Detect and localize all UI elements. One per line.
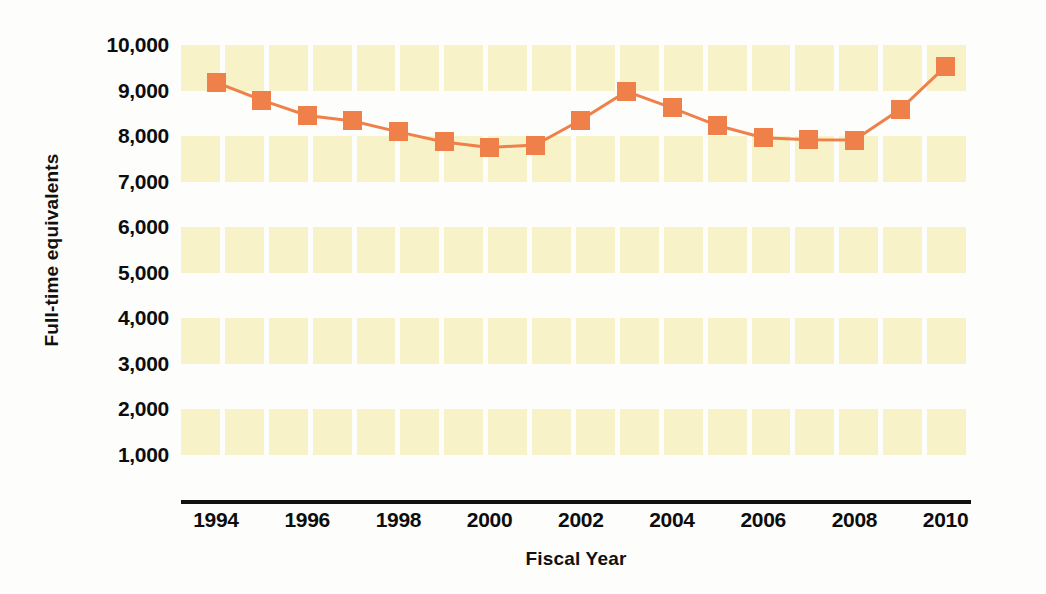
x-axis-tick-label: 2006 bbox=[740, 508, 786, 532]
series-marker-layer bbox=[181, 22, 971, 500]
y-axis-tick-label: 9,000 bbox=[118, 79, 169, 103]
data-point-marker bbox=[207, 73, 226, 92]
x-axis-title: Fiscal Year bbox=[181, 548, 971, 570]
x-axis-tick-label: 1994 bbox=[193, 508, 239, 532]
x-axis-tick-label: 2008 bbox=[832, 508, 878, 532]
y-axis-title-text: Full-time equivalents bbox=[41, 153, 63, 346]
x-axis-tick-label: 2004 bbox=[649, 508, 695, 532]
y-axis-tick-label: 4,000 bbox=[118, 306, 169, 330]
data-point-marker bbox=[799, 130, 818, 149]
data-point-marker bbox=[754, 128, 773, 147]
line-chart: Full-time equivalents 10,0009,0008,0007,… bbox=[0, 0, 1046, 594]
data-point-marker bbox=[480, 138, 499, 157]
y-axis-tick-label: 2,000 bbox=[118, 397, 169, 421]
y-axis-tick-labels: 10,0009,0008,0007,0006,0005,0004,0003,00… bbox=[70, 0, 175, 500]
data-point-marker bbox=[845, 131, 864, 150]
y-axis-title: Full-time equivalents bbox=[32, 0, 72, 500]
x-axis-line bbox=[181, 500, 971, 504]
data-point-marker bbox=[708, 116, 727, 135]
data-point-marker bbox=[526, 136, 545, 155]
x-axis-tick-label: 2010 bbox=[923, 508, 969, 532]
x-axis-tick-label: 1998 bbox=[376, 508, 422, 532]
x-axis-tick-labels: 199419961998200020022004200620082010 bbox=[181, 508, 971, 542]
data-point-marker bbox=[435, 132, 454, 151]
y-axis-tick-label: 5,000 bbox=[118, 261, 169, 285]
x-axis-tick-label: 2002 bbox=[558, 508, 604, 532]
data-point-marker bbox=[617, 82, 636, 101]
y-axis-tick-label: 1,000 bbox=[118, 443, 169, 467]
y-axis-tick-label: 6,000 bbox=[118, 215, 169, 239]
x-axis-tick-label: 1996 bbox=[284, 508, 330, 532]
data-point-marker bbox=[571, 111, 590, 130]
x-axis-tick-label: 2000 bbox=[467, 508, 513, 532]
data-point-marker bbox=[343, 111, 362, 130]
y-axis-tick-label: 7,000 bbox=[118, 170, 169, 194]
plot-area bbox=[181, 22, 971, 500]
y-axis-tick-label: 8,000 bbox=[118, 124, 169, 148]
y-axis-tick-label: 10,000 bbox=[107, 33, 169, 57]
data-point-marker bbox=[298, 106, 317, 125]
data-point-marker bbox=[936, 57, 955, 76]
data-point-marker bbox=[891, 100, 910, 119]
data-point-marker bbox=[389, 122, 408, 141]
data-point-marker bbox=[252, 91, 271, 110]
data-point-marker bbox=[663, 98, 682, 117]
y-axis-tick-label: 3,000 bbox=[118, 352, 169, 376]
